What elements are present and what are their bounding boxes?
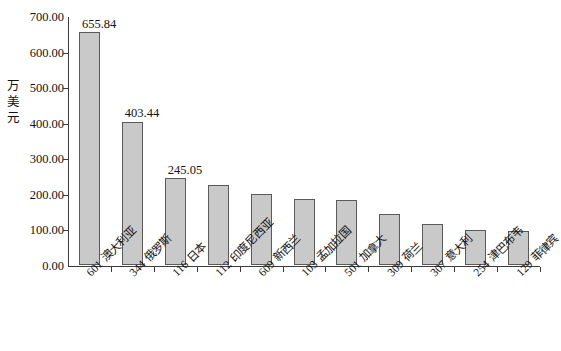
y-axis-tick-mark <box>63 159 68 160</box>
bar-value-label: 655.84 <box>82 18 116 31</box>
bar-value-label: 403.44 <box>125 107 159 120</box>
y-axis-tick-label: 700.00 <box>8 11 64 23</box>
plot-area: 655.84403.44245.05 <box>68 17 540 266</box>
bar[interactable] <box>165 178 186 265</box>
x-axis-category-labels: 601 澳大利亚344 俄罗斯116 日本112 印度尼西亚609 新西兰103… <box>68 268 550 351</box>
y-axis-tick-label: 200.00 <box>8 189 64 201</box>
y-axis-tick-mark <box>63 53 68 54</box>
y-axis-tick-label: 300.00 <box>8 153 64 165</box>
y-axis-tick-label: 100.00 <box>8 224 64 236</box>
y-axis-tick-mark <box>63 124 68 125</box>
bar-value-label: 245.05 <box>168 164 202 177</box>
bar[interactable] <box>79 32 100 265</box>
y-axis-tick-label: 600.00 <box>8 47 64 59</box>
y-axis-tick-mark <box>63 195 68 196</box>
bar[interactable] <box>208 185 229 265</box>
y-axis-tick-mark <box>63 88 68 89</box>
y-axis-tick-label: 500.00 <box>8 82 64 94</box>
y-axis-tick-label: 400.00 <box>8 118 64 130</box>
y-axis-tick-labels: 700.00600.00500.00400.00300.00200.00100.… <box>0 0 64 351</box>
y-axis-line <box>68 17 69 267</box>
y-axis-tick-mark <box>63 230 68 231</box>
y-axis-tick-label: 0.00 <box>8 260 64 272</box>
